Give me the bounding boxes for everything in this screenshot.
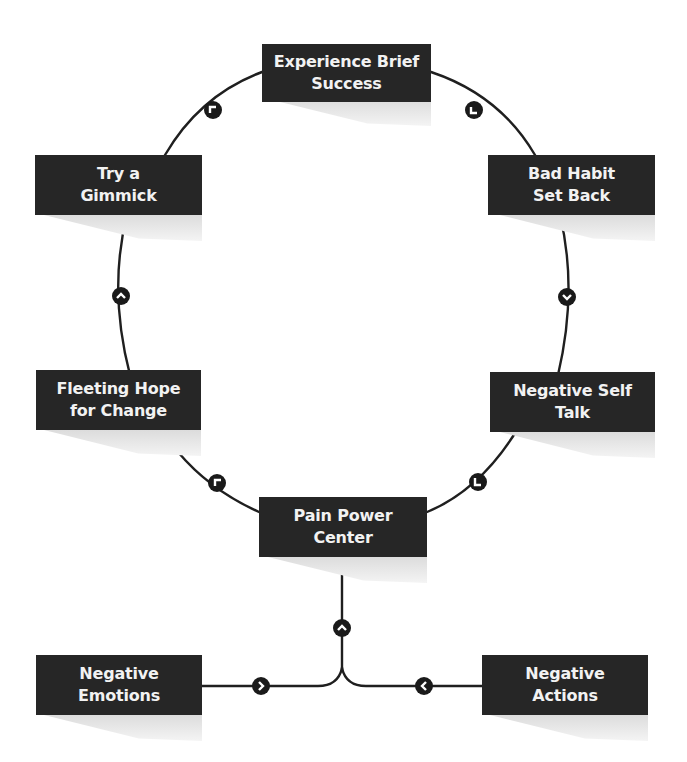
node-negative-emotions: Negative Emotions [36,655,202,715]
arrow-right-icon [252,677,270,695]
node-label-line2: Actions [532,685,598,707]
arrow-left-icon [415,677,433,695]
arrow-down-icon [558,288,576,306]
node-negative-actions: Negative Actions [482,655,648,715]
arrow-down-right-icon [465,101,483,119]
node-label-line1: Fleeting Hope [57,378,181,400]
node-label-line1: Experience Brief [274,51,419,73]
node-fleeting-hope-for-change: Fleeting Hope for Change [36,370,201,430]
node-bad-habit-set-back: Bad Habit Set Back [488,155,655,215]
node-label-line1: Negative [525,663,604,685]
node-label-line2: for Change [70,400,167,422]
arrow-up-icon [112,287,130,305]
edge-experience-to-badhabit [431,72,535,155]
node-label-line2: Talk [555,402,590,424]
arrow-up-right-icon [204,101,222,119]
node-label-line2: Gimmick [80,185,156,207]
node-label-line2: Emotions [78,685,160,707]
arrow-down-left-icon [469,473,487,491]
node-label-line1: Pain Power [294,505,393,527]
node-negative-self-talk: Negative Self Talk [490,372,655,432]
node-experience-brief-success: Experience Brief Success [262,44,431,102]
edge-actions-to-merge [342,668,482,686]
node-label-line1: Bad Habit [528,163,615,185]
node-label-line2: Success [311,73,381,95]
node-label-line1: Try a [97,163,140,185]
node-label-line2: Center [313,527,372,549]
node-label-line1: Negative Self [513,380,632,402]
arrow-up-left-icon [208,474,226,492]
edge-emotions-to-merge [202,668,342,686]
node-label-line1: Negative [79,663,158,685]
edge-selftalk-to-pain [427,430,517,512]
node-try-a-gimmick: Try a Gimmick [35,155,202,215]
node-pain-power-center: Pain Power Center [259,497,427,557]
node-label-line2: Set Back [533,185,610,207]
arrow-up-icon [333,619,351,637]
